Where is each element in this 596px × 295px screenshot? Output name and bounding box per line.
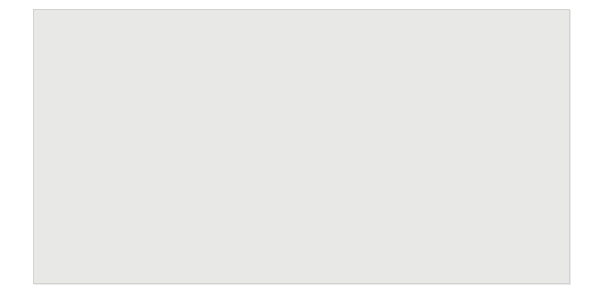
chart-svg [0, 0, 596, 295]
figure-container [0, 0, 596, 295]
